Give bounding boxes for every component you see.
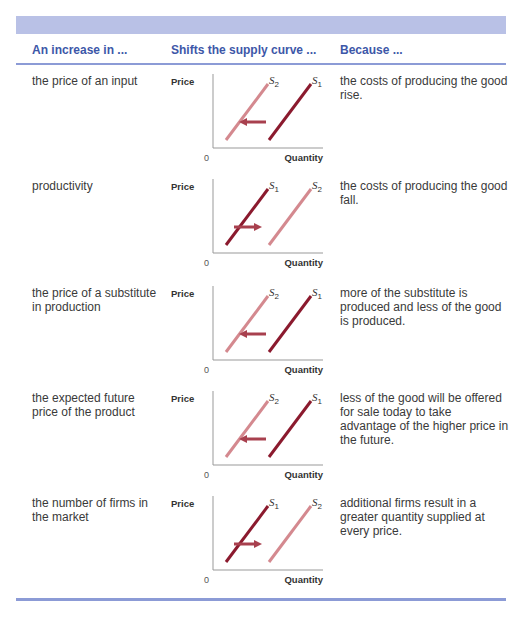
supply-shift-graph: PriceQuantity0S2S1: [171, 389, 331, 489]
origin-label: 0: [204, 575, 209, 585]
cause-text: the number of firms in the market: [32, 496, 162, 524]
header-cause: An increase in ...: [32, 43, 127, 57]
quantity-axis-label: Quantity: [284, 152, 323, 163]
quantity-axis-label: Quantity: [284, 257, 323, 268]
left-curve-label: S2: [269, 286, 279, 301]
price-axis-label: Price: [171, 76, 194, 87]
supply-shift-graph: PriceQuantity0S1S2: [171, 494, 331, 594]
origin-label: 0: [204, 258, 209, 268]
left-curve-label: S2: [269, 74, 279, 89]
table-row: the number of firms in the marketPriceQu…: [16, 488, 506, 593]
price-axis-label: Price: [171, 498, 194, 509]
supply-shift-graph: PriceQuantity0S1S2: [171, 177, 331, 277]
reason-text: additional firms result in a greater qua…: [340, 496, 510, 538]
reason-text: more of the substitute is produced and l…: [340, 286, 510, 328]
cause-text: the expected future price of the product: [32, 391, 162, 419]
header-shift: Shifts the supply curve ...: [171, 43, 316, 57]
supply-shift-graph: PriceQuantity0S2S1: [171, 72, 331, 172]
cause-text: the price of an input: [32, 74, 162, 88]
header-band: [16, 16, 506, 34]
header-reason: Because ...: [340, 43, 403, 57]
price-axis-label: Price: [171, 288, 194, 299]
right-curve-label: S1: [312, 74, 322, 89]
right-curve-label: S1: [312, 286, 322, 301]
table-row: the expected future price of the product…: [16, 383, 506, 488]
cause-text: productivity: [32, 179, 162, 193]
right-curve-label: S1: [312, 391, 322, 406]
left-curve-label: S1: [269, 496, 279, 511]
cause-text: the price of a substitute in production: [32, 286, 162, 314]
header-rule: [16, 63, 506, 65]
quantity-axis-label: Quantity: [284, 364, 323, 375]
table-row: the price of an inputPriceQuantity0S2S1t…: [16, 66, 506, 171]
bottom-rule: [16, 598, 506, 601]
reason-text: the costs of producing the good rise.: [340, 74, 510, 102]
right-curve-label: S2: [312, 496, 322, 511]
reason-text: less of the good will be offered for sal…: [340, 391, 510, 447]
supply-shift-graph: PriceQuantity0S2S1: [171, 284, 331, 384]
quantity-axis-label: Quantity: [284, 469, 323, 480]
table-header: An increase in ... Shifts the supply cur…: [16, 34, 506, 64]
right-curve-label: S2: [312, 179, 322, 194]
origin-label: 0: [204, 365, 209, 375]
origin-label: 0: [204, 470, 209, 480]
price-axis-label: Price: [171, 393, 194, 404]
reason-text: the costs of producing the good fall.: [340, 179, 510, 207]
table-row: the price of a substitute in productionP…: [16, 278, 506, 383]
left-curve-label: S2: [269, 391, 279, 406]
quantity-axis-label: Quantity: [284, 574, 323, 585]
price-axis-label: Price: [171, 181, 194, 192]
table-row: productivityPriceQuantity0S1S2the costs …: [16, 171, 506, 276]
left-curve-label: S1: [269, 179, 279, 194]
origin-label: 0: [204, 153, 209, 163]
